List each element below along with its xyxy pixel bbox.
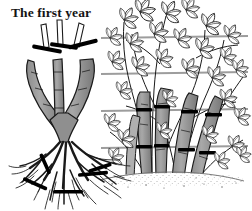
botanical-illustration-figure: The first year: [0, 0, 252, 211]
figure-title: The first year: [11, 5, 91, 21]
illustration-canvas: [0, 0, 252, 211]
severed-cane-tip: [57, 20, 63, 45]
pruning-cut-mark: [53, 190, 83, 194]
